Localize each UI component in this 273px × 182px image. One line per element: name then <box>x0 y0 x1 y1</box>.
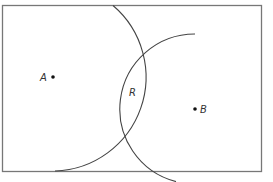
point-b-dot <box>193 107 197 111</box>
point-a-dot <box>51 75 55 79</box>
point-b-label: B <box>200 104 207 115</box>
diagram-canvas: A B R <box>0 0 273 182</box>
arc-circle-b <box>120 34 195 182</box>
point-a-label: A <box>39 72 47 83</box>
region-r-label: R <box>129 87 136 98</box>
